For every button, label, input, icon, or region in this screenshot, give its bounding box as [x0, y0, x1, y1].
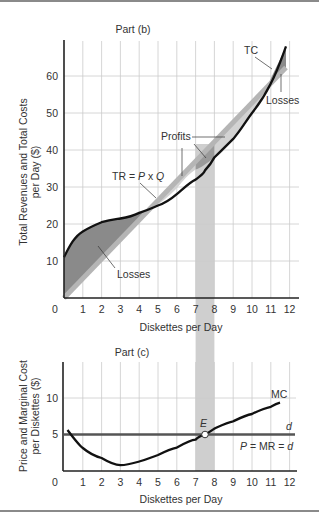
svg-text:9: 9 [230, 476, 236, 488]
svg-text:4: 4 [136, 303, 142, 315]
ylabel-b: Total Revenues and Total Costs per Day (… [17, 98, 41, 245]
losses-low-label: Losses [117, 268, 150, 280]
svg-text:2: 2 [99, 476, 105, 488]
svg-text:8: 8 [211, 303, 217, 315]
svg-text:9: 9 [230, 303, 236, 315]
chart-part-b: 10 20 30 40 50 60 0 1 2 3 4 5 6 7 8 9 10… [17, 23, 299, 333]
svg-text:10: 10 [246, 476, 258, 488]
svg-text:8: 8 [211, 476, 217, 488]
svg-text:0: 0 [52, 476, 58, 488]
tr-pointer [140, 183, 156, 198]
xlabel-c: Diskettes per Day [140, 493, 224, 505]
svg-text:5: 5 [155, 476, 161, 488]
svg-text:7: 7 [193, 303, 199, 315]
losses-high-label: Losses [266, 94, 299, 106]
svg-text:1: 1 [80, 303, 86, 315]
title-part-b: Part (b) [115, 23, 150, 35]
e-label: E [200, 417, 208, 429]
svg-text:2: 2 [99, 303, 105, 315]
tr-line [64, 68, 286, 299]
svg-text:per Diskettes ($): per Diskettes ($) [29, 377, 41, 454]
d-label: d [286, 420, 293, 432]
grid-vertical-c [83, 362, 290, 471]
svg-text:12: 12 [284, 303, 296, 315]
ylabel-c: Price and Marginal Cost per Diskettes ($… [17, 360, 41, 472]
ytick-c-5: 5 [52, 428, 58, 440]
bottom-border [0, 510, 319, 512]
svg-text:5: 5 [155, 303, 161, 315]
xticks-b: 0 1 2 3 4 5 6 7 8 9 10 11 12 [52, 303, 296, 315]
svg-text:7: 7 [193, 476, 199, 488]
ytick-b-40: 40 [46, 144, 58, 156]
svg-text:per Day ($): per Day ($) [29, 146, 41, 199]
tc-pointer [255, 57, 272, 69]
ytick-b-60: 60 [46, 70, 58, 82]
svg-text:3: 3 [117, 476, 123, 488]
svg-text:10: 10 [246, 303, 258, 315]
ytick-b-50: 50 [46, 107, 58, 119]
title-part-c: Part (c) [115, 346, 149, 358]
xticks-c: 0 1 2 3 4 5 6 7 8 9 10 11 12 [52, 476, 296, 488]
pmrd-label: P = MR = d [240, 440, 294, 452]
svg-text:1: 1 [80, 476, 86, 488]
ytick-b-10: 10 [46, 255, 58, 267]
top-border [0, 0, 319, 2]
tc-label: TC [244, 44, 258, 56]
figure: 10 20 30 40 50 60 0 1 2 3 4 5 6 7 8 9 10… [0, 0, 319, 522]
mc-label: MC [271, 388, 288, 400]
tr-label: TR = P x Q [112, 170, 164, 182]
svg-text:11: 11 [265, 476, 276, 488]
ytick-b-30: 30 [46, 181, 58, 193]
svg-text:6: 6 [174, 303, 180, 315]
svg-text:3: 3 [117, 303, 123, 315]
svg-text:6: 6 [174, 476, 180, 488]
svg-text:4: 4 [136, 476, 142, 488]
xlabel-b: Diskettes per Day [140, 321, 224, 333]
equilibrium-point [202, 431, 209, 438]
svg-text:Total Revenues and Total Costs: Total Revenues and Total Costs [17, 98, 29, 245]
svg-text:12: 12 [284, 476, 296, 488]
profits-label: Profits [161, 130, 191, 142]
chart-part-c: 10 5 0 1 2 3 4 5 6 7 8 9 10 11 12 Part (… [17, 346, 297, 505]
ytick-b-20: 20 [46, 218, 58, 230]
svg-text:11: 11 [265, 303, 276, 315]
svg-text:0: 0 [52, 303, 58, 315]
svg-text:Price and Marginal Cost: Price and Marginal Cost [17, 360, 29, 472]
ytick-c-10: 10 [46, 392, 58, 404]
